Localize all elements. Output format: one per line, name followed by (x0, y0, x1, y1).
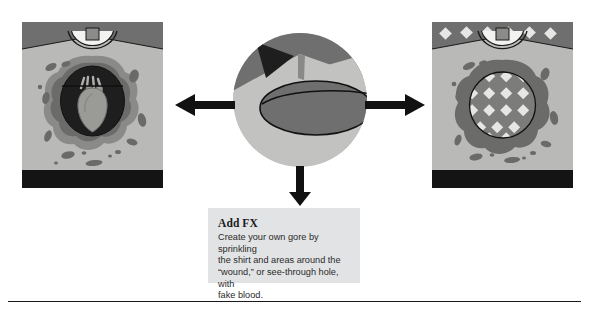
magnified-detail-circle (232, 32, 368, 168)
left-shirt-illustration (22, 22, 163, 188)
arrow-down (286, 166, 314, 208)
caption-title: Add FX (218, 217, 350, 230)
caption-body: Create your own gore by sprinkling the s… (218, 232, 350, 302)
caption-box: Add FX Create your own gore by sprinklin… (208, 208, 360, 283)
arrow-right-icon (365, 94, 425, 116)
right-shirt-panel (432, 22, 573, 188)
bottom-rule (8, 301, 581, 302)
collar-tag (86, 28, 99, 40)
right-shirt-illustration (432, 22, 573, 188)
left-shirt-panel (22, 22, 163, 188)
illustration-page: Add FX Create your own gore by sprinklin… (0, 0, 589, 311)
hem-band (432, 170, 573, 188)
hem-band (22, 170, 163, 188)
arrow-right (365, 92, 427, 118)
arrow-left (173, 92, 235, 118)
arrow-down-icon (289, 166, 311, 206)
detail-wound-ellipse (260, 81, 368, 135)
detail-illustration (232, 32, 368, 168)
collar-tag (496, 28, 509, 40)
arrow-left-icon (175, 94, 235, 116)
detail-collar-tab (298, 54, 305, 80)
